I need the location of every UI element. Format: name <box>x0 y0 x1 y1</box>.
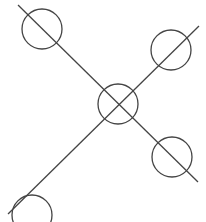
circle-bottom-left <box>12 195 52 222</box>
diagonal-line-down <box>18 5 198 182</box>
diagram-canvas <box>0 0 206 222</box>
circle-top-right <box>151 30 191 70</box>
diagonal-line-up <box>8 26 199 214</box>
